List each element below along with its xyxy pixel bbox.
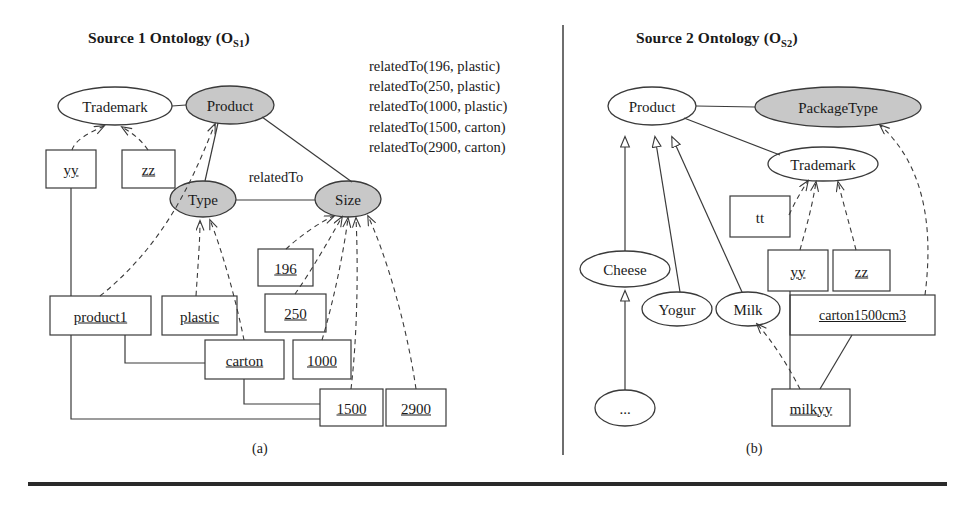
edge-trademark-product (172, 105, 186, 106)
panel-a-title: Source 1 Ontology (OS1) (88, 29, 250, 49)
instance-box-milkyy-b (772, 389, 850, 426)
instance-box-yy-b (768, 250, 828, 291)
predicate-line-2: relatedTo(250, plastic) (369, 76, 507, 96)
instance-box-zz-b (833, 250, 890, 291)
instanceof-yy-trademark (72, 126, 104, 150)
instance-box-tt-b (730, 196, 790, 237)
instance-box-carton1500cm3-b (790, 295, 935, 335)
class-node-packagetype-b (755, 87, 921, 127)
class-node-ellipsis-b (595, 390, 655, 426)
class-node-product-a (186, 86, 274, 124)
class-node-yogur-b (642, 292, 712, 326)
class-node-product-b (608, 87, 696, 125)
instanceof-zz-trademark (122, 127, 148, 150)
panel-b-title: Source 2 Ontology (OS2) (636, 29, 798, 49)
instance-box-196-a (258, 249, 313, 286)
instance-box-yy-a (46, 150, 96, 188)
link-product1-carton (125, 335, 205, 363)
instance-box-plastic-a (162, 296, 237, 335)
link-carton-1500 (244, 379, 320, 404)
instanceof-tt-trademark (789, 181, 808, 215)
edge-product-packagetype (696, 106, 755, 107)
figure-ontology-alignment: Source 1 Ontology (OS1) Source 2 Ontolog… (0, 0, 975, 506)
link-carton1500cm3-milkyy (820, 335, 852, 389)
instanceof-1500-size (351, 218, 357, 389)
instanceof-plastic-type (196, 221, 200, 296)
instanceof-yy-trademark-b (800, 182, 816, 250)
caption-b: (b) (746, 441, 762, 457)
predicate-line-5: relatedTo(2900, carton) (369, 137, 507, 157)
instance-box-product1-a (50, 296, 151, 335)
instance-box-carton-a (205, 340, 284, 379)
predicate-line-1: relatedTo(196, plastic) (369, 56, 507, 76)
instance-box-zz-a (122, 150, 175, 188)
instanceof-zz-trademark-b (838, 182, 856, 250)
edge-label-relatedto: relatedTo (249, 169, 304, 186)
class-node-trademark-b (768, 147, 878, 181)
predicate-line-3: relatedTo(1000, plastic) (369, 96, 507, 116)
instanceof-2900-size (368, 216, 416, 389)
bottom-rule (28, 482, 947, 486)
predicate-line-4: relatedTo(1500, carton) (369, 117, 507, 137)
relatedto-predicate-list: relatedTo(196, plastic)relatedTo(250, pl… (369, 56, 507, 157)
instance-box-1500-a (320, 389, 383, 426)
class-node-trademark-a (58, 87, 172, 125)
class-node-cheese-b (580, 251, 670, 287)
class-node-type-a (170, 181, 236, 217)
class-node-milk-b (716, 292, 780, 326)
instance-box-1000-a (293, 340, 351, 379)
instance-box-250-a (265, 294, 326, 332)
instance-box-2900-a (386, 389, 446, 426)
class-node-size-a (315, 181, 381, 217)
caption-a: (a) (252, 441, 268, 457)
edge-product-trademark (684, 118, 780, 155)
